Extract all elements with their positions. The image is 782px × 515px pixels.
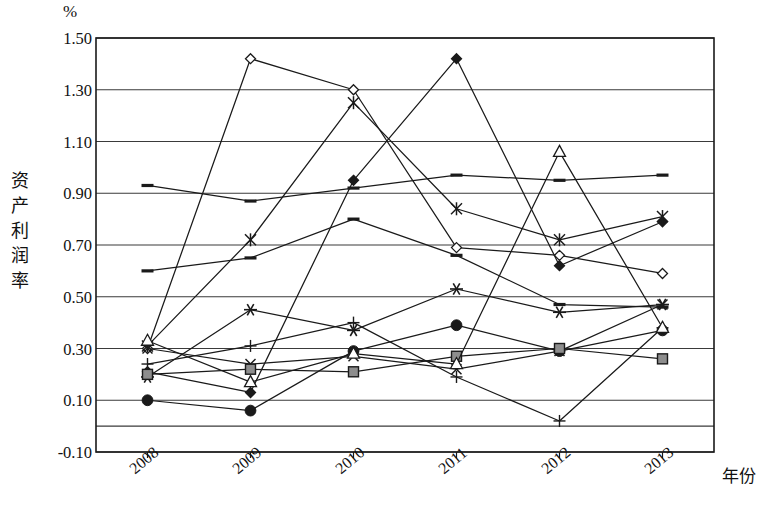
marker-filled-circle <box>245 405 256 416</box>
series-dash-high <box>142 175 669 201</box>
series-plus <box>142 317 669 427</box>
series-open-diamond <box>143 54 668 354</box>
marker-filled-square <box>555 344 565 354</box>
series-six-point-star <box>141 283 669 382</box>
marker-open-diamond <box>658 268 668 278</box>
series-asterisk-star <box>142 96 668 352</box>
series-x-cross <box>143 300 668 375</box>
series-filled-diamond-line <box>148 59 663 393</box>
marker-open-diamond <box>349 85 359 95</box>
plot-area <box>0 0 782 515</box>
series-dash-low <box>142 219 669 307</box>
series-filled-circle <box>142 320 668 416</box>
marker-filled-square <box>143 369 153 379</box>
marker-filled-diamond <box>555 261 565 271</box>
x-axis-title: 年份 <box>722 462 756 487</box>
series-filled-diamond <box>143 54 668 398</box>
series-dash-low-line <box>148 219 663 307</box>
marker-open-triangle <box>554 145 566 156</box>
marker-filled-circle <box>142 395 153 406</box>
marker-filled-diamond <box>246 387 256 397</box>
marker-filled-square <box>246 364 256 374</box>
marker-open-diamond <box>452 243 462 253</box>
marker-filled-square <box>349 367 359 377</box>
marker-filled-square <box>658 354 668 364</box>
chart-container: % 资产利润率 1.501.301.100.900.700.500.300.10… <box>0 0 782 515</box>
marker-filled-circle <box>451 320 462 331</box>
marker-open-diamond <box>246 54 256 64</box>
series-filled-square-line <box>148 349 663 375</box>
series-x-cross-line <box>148 305 663 370</box>
series-dash-high-line <box>148 175 663 201</box>
